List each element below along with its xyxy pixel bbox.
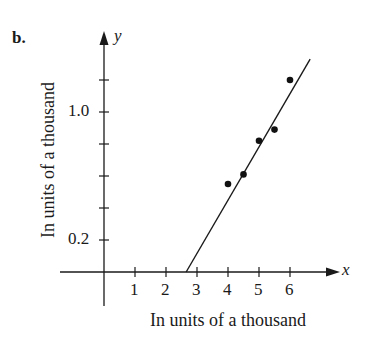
data-point [240,171,247,178]
y-tick-label: 0.2 [68,229,89,249]
data-points [225,77,294,188]
data-point [225,181,232,188]
data-point [256,138,263,145]
data-point [287,77,294,84]
x-tick-label: 5 [254,280,263,300]
x-tick-label: 2 [161,280,170,300]
y-axis-arrow-icon [100,31,109,45]
fitted-line [186,59,310,272]
x-tick-label: 4 [223,280,232,300]
y-axis-name: y [114,26,122,46]
panel-label: b. [12,28,26,48]
x-tick-label: 6 [285,280,294,300]
x-axis-label: In units of a thousand [150,310,306,331]
regression-line [186,59,310,272]
data-point [271,126,278,133]
x-axis-arrow-icon [326,268,340,277]
x-axis-name: x [342,260,350,280]
y-axis-label: In units of a thousand [38,82,59,238]
x-tick-label: 1 [130,280,139,300]
x-tick-label: 3 [192,280,201,300]
y-tick-label: 1.0 [68,101,89,121]
